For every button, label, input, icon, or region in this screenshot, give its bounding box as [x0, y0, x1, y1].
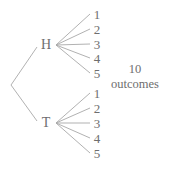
branch-t-5	[56, 123, 90, 153]
leaf-t-2: 2	[94, 102, 101, 115]
tree-diagram: H T 1 2 3 4 5 1 2 3 4 5 10 outcomes	[0, 0, 170, 170]
leaf-t-3: 3	[94, 117, 101, 130]
outcome-label: outcomes	[111, 78, 159, 91]
outcome-count: 10	[129, 63, 142, 76]
branch-root-t	[11, 85, 37, 121]
node-t: T	[42, 116, 51, 130]
branch-root-h	[11, 47, 37, 85]
leaf-t-4: 4	[94, 132, 101, 145]
branch-t-2	[56, 108, 90, 123]
leaf-h-1: 1	[94, 8, 101, 21]
leaf-t-5: 5	[94, 147, 101, 160]
node-h: H	[41, 38, 51, 52]
leaf-h-3: 3	[94, 38, 101, 51]
leaf-h-4: 4	[94, 52, 101, 65]
branch-h-5	[56, 45, 90, 73]
branch-h-2	[56, 29, 90, 45]
branch-h-1	[56, 14, 90, 45]
leaf-h-2: 2	[94, 23, 101, 36]
branch-h-3	[56, 44, 90, 45]
branch-t-1	[56, 93, 90, 123]
leaf-h-5: 5	[94, 67, 101, 80]
branch-t-4	[56, 123, 90, 138]
leaf-t-1: 1	[94, 87, 101, 100]
branch-h-4	[56, 45, 90, 58]
